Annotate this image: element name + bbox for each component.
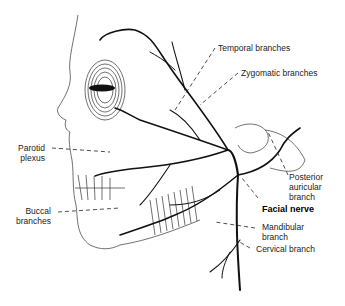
label-temporal-branches: Temporal branches	[218, 43, 290, 53]
label-zygomatic-branches: Zygomatic branches	[241, 68, 318, 78]
label-buccal-branches: Buccal branches	[16, 206, 51, 226]
label-mandibular-branch: Mandibular branch	[262, 222, 304, 242]
label-posterior-auricular-branch: Posterior auricular branch	[289, 172, 323, 202]
label-facial-nerve: Facial nerve	[262, 204, 314, 214]
facial-nerve-illustration	[0, 0, 345, 306]
label-parotid-plexus: Parotid plexus	[18, 143, 45, 163]
label-cervical-branch: Cervical branch	[256, 244, 315, 254]
